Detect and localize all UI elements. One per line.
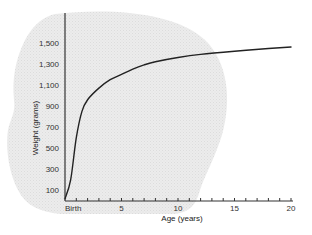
y-axis-title: Weight (grams) [31, 100, 40, 155]
y-tick-label: 1,500 [39, 39, 60, 48]
x-tick-label: 20 [287, 204, 296, 213]
y-tick-label: 700 [46, 123, 60, 132]
brain-weight-chart: 1003005007009001,1001,3001,500 Birth5101… [0, 0, 312, 235]
x-tick-label: 15 [230, 204, 239, 213]
y-tick-label: 1,100 [39, 81, 60, 90]
x-tick-label: Birth [65, 204, 81, 213]
y-tick-label: 500 [46, 144, 60, 153]
x-tick-label: 5 [119, 204, 124, 213]
y-tick-label: 100 [46, 186, 60, 195]
y-tick-label: 300 [46, 165, 60, 174]
x-tick-label: 10 [174, 204, 183, 213]
x-axis-title: Age (years) [161, 214, 203, 223]
y-tick-label: 1,300 [39, 60, 60, 69]
y-tick-label: 900 [46, 102, 60, 111]
